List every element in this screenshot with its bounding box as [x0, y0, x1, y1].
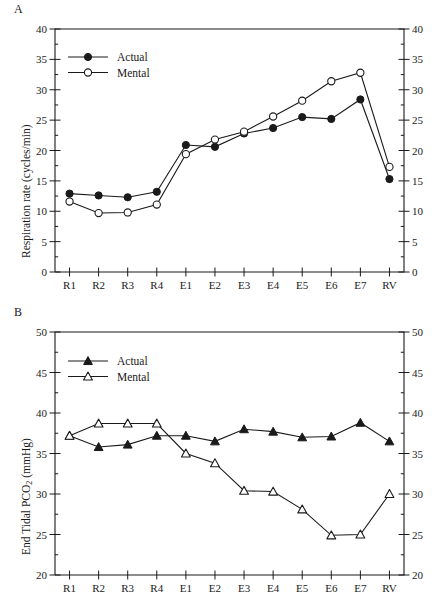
- x-tick-label: E3: [238, 279, 251, 291]
- data-point-marker: [66, 198, 73, 205]
- legend-label: Mental: [117, 67, 150, 79]
- data-point-marker: [298, 505, 307, 513]
- data-point-marker: [153, 201, 160, 208]
- data-point-marker: [95, 192, 102, 199]
- x-tick-label: R1: [63, 582, 76, 594]
- y-tick-label-left: 10: [36, 205, 48, 217]
- x-tick-label: R2: [92, 279, 105, 291]
- data-point-marker: [211, 459, 220, 467]
- plot-area-a: 00551010151520202525303035354040R1R2R3R4…: [0, 0, 442, 305]
- data-point-marker: [124, 194, 131, 201]
- y-tick-label-left: 15: [36, 175, 48, 187]
- data-point-marker: [182, 151, 189, 158]
- y-tick-label-right: 40: [412, 407, 424, 419]
- legend-marker: [84, 53, 91, 60]
- data-point-marker: [385, 490, 394, 498]
- data-point-marker: [182, 141, 189, 148]
- x-tick-label: E5: [296, 582, 309, 594]
- y-tick-label-left: 30: [36, 488, 48, 500]
- y-tick-label-right: 0: [412, 266, 418, 278]
- y-tick-label-right: 35: [412, 53, 424, 65]
- y-tick-label-right: 30: [412, 84, 424, 96]
- data-point-marker: [328, 78, 335, 85]
- y-tick-label-right: 50: [412, 326, 424, 338]
- data-point-marker: [240, 128, 247, 135]
- series-mental: [65, 419, 394, 539]
- data-point-marker: [153, 188, 160, 195]
- y-tick-label-left: 25: [36, 529, 48, 541]
- x-tick-label: E5: [296, 279, 309, 291]
- y-tick-label-left: 35: [36, 448, 48, 460]
- data-point-marker: [95, 209, 102, 216]
- series-mental: [66, 69, 393, 217]
- legend-label: Actual: [117, 51, 148, 63]
- y-tick-label-right: 10: [412, 205, 424, 217]
- y-tick-label-left: 25: [36, 114, 48, 126]
- series-actual: [66, 96, 393, 201]
- y-tick-label-right: 45: [412, 367, 424, 379]
- y-tick-label-left: 50: [36, 326, 48, 338]
- legend-entry-mental: Mental: [68, 67, 150, 79]
- x-tick-label: R4: [150, 582, 163, 594]
- x-tick-label: R3: [121, 582, 134, 594]
- data-point-marker: [357, 96, 364, 103]
- y-tick-label-left: 20: [36, 145, 48, 157]
- y-tick-label-left: 30: [36, 84, 48, 96]
- panel-b: BEnd Tidal PCO2 (mmHg)202025253030353540…: [0, 305, 442, 611]
- y-tick-label-left: 0: [42, 266, 48, 278]
- y-tick-label-left: 5: [42, 236, 48, 248]
- y-tick-label-right: 20: [412, 145, 424, 157]
- x-tick-label: R1: [63, 279, 76, 291]
- data-point-marker: [270, 124, 277, 131]
- x-tick-label: E6: [325, 582, 338, 594]
- y-tick-label-right: 40: [412, 23, 424, 35]
- legend-entry-mental: Mental: [68, 371, 150, 383]
- x-tick-label: RV: [382, 582, 396, 594]
- y-tick-label-left: 40: [36, 407, 48, 419]
- data-point-marker: [386, 175, 393, 182]
- y-tick-label-right: 15: [412, 175, 424, 187]
- y-tick-label-right: 25: [412, 529, 424, 541]
- x-tick-label: R4: [150, 279, 163, 291]
- data-point-marker: [357, 69, 364, 76]
- y-tick-label-right: 20: [412, 569, 424, 581]
- x-tick-label: E4: [267, 279, 280, 291]
- legend-entry-actual: Actual: [68, 51, 148, 63]
- x-tick-label: E1: [180, 582, 192, 594]
- data-point-marker: [356, 418, 365, 426]
- y-tick-label-left: 40: [36, 23, 48, 35]
- x-tick-label: E4: [267, 582, 280, 594]
- data-point-marker: [66, 190, 73, 197]
- x-tick-label: E2: [209, 279, 221, 291]
- y-tick-label-left: 45: [36, 367, 48, 379]
- plot-area-b: 2020252530303535404045455050R1R2R3R4E1E2…: [0, 305, 442, 611]
- y-tick-label-right: 25: [412, 114, 424, 126]
- y-tick-label-right: 5: [412, 236, 418, 248]
- legend-marker: [84, 69, 91, 76]
- data-point-marker: [299, 97, 306, 104]
- y-tick-label-right: 35: [412, 448, 424, 460]
- data-point-marker: [385, 437, 394, 445]
- x-tick-label: RV: [382, 279, 396, 291]
- legend-label: Mental: [117, 371, 150, 383]
- x-tick-label: E7: [354, 582, 367, 594]
- x-tick-label: E7: [354, 279, 367, 291]
- y-tick-label-right: 30: [412, 488, 424, 500]
- data-point-marker: [270, 113, 277, 120]
- data-point-marker: [328, 115, 335, 122]
- panel-a: ARespiration rate (cycles/min)0055101015…: [0, 0, 442, 305]
- x-tick-label: R3: [121, 279, 134, 291]
- x-tick-label: E1: [180, 279, 192, 291]
- legend-entry-actual: Actual: [68, 355, 148, 367]
- data-point-marker: [211, 143, 218, 150]
- data-point-marker: [299, 113, 306, 120]
- x-tick-label: E6: [325, 279, 338, 291]
- y-tick-label-left: 35: [36, 53, 48, 65]
- data-point-marker: [386, 163, 393, 170]
- data-point-marker: [65, 431, 74, 439]
- data-point-marker: [211, 136, 218, 143]
- y-tick-label-left: 20: [36, 569, 48, 581]
- x-tick-label: R2: [92, 582, 105, 594]
- x-tick-label: E3: [238, 582, 251, 594]
- legend-label: Actual: [117, 355, 148, 367]
